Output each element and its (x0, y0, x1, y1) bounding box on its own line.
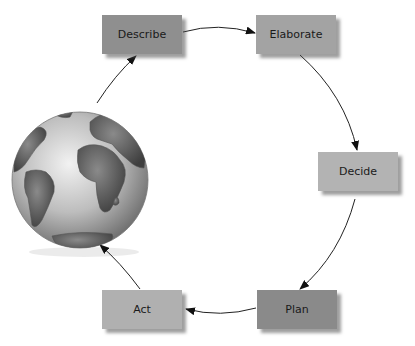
arrow-describe-to-elaborate (183, 27, 255, 33)
node-decide: Decide (318, 152, 398, 191)
node-label: Decide (339, 165, 377, 178)
arrow-plan-to-act (186, 308, 256, 313)
node-plan: Plan (257, 290, 337, 329)
node-label: Act (133, 303, 151, 316)
node-label: Elaborate (270, 28, 323, 41)
node-label: Describe (118, 28, 166, 41)
node-elaborate: Elaborate (256, 15, 336, 54)
arrow-globe-to-describe (97, 56, 136, 103)
node-describe: Describe (102, 15, 182, 54)
arrow-decide-to-plan (300, 199, 355, 289)
globe-icon (12, 107, 148, 257)
arrow-elaborate-to-decide (300, 55, 357, 150)
node-label: Plan (285, 303, 308, 316)
node-act: Act (102, 290, 182, 329)
